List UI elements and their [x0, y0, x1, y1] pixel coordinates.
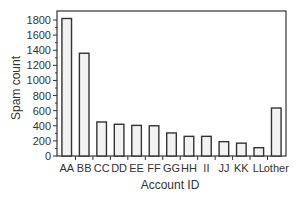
x-tick-label: DD — [111, 162, 127, 174]
x-tick-label: KK — [234, 162, 249, 174]
chart-canvas: 020040060080010001200140016001800AABBCCD… — [0, 0, 296, 200]
bar-cc — [97, 122, 107, 156]
y-tick-label: 1600 — [27, 29, 51, 41]
bar-jj — [219, 142, 229, 156]
x-tick-label: EE — [129, 162, 144, 174]
y-tick-label: 200 — [33, 135, 51, 147]
bar-ll — [254, 148, 264, 156]
y-tick-label: 1400 — [27, 44, 51, 56]
x-tick-label: JJ — [218, 162, 229, 174]
x-tick-label: II — [203, 162, 209, 174]
bar-hh — [184, 136, 194, 156]
bar-ff — [149, 126, 159, 156]
y-tick-label: 1800 — [27, 14, 51, 26]
bar-ee — [132, 125, 142, 156]
y-tick-label: 1000 — [27, 74, 51, 86]
x-tick-label: FF — [147, 162, 161, 174]
y-tick-label: 1200 — [27, 59, 51, 71]
bar-aa — [62, 18, 72, 156]
y-tick-label: 0 — [45, 150, 51, 162]
y-tick-label: 400 — [33, 120, 51, 132]
x-tick-label: CC — [94, 162, 110, 174]
x-tick-label: other — [264, 162, 289, 174]
bar-bb — [79, 53, 89, 156]
y-tick-label: 800 — [33, 90, 51, 102]
bar-other — [271, 108, 281, 156]
bar-dd — [114, 124, 124, 156]
x-tick-label: GG — [163, 162, 180, 174]
bar-kk — [237, 143, 247, 156]
y-axis-label: Spam count — [9, 56, 23, 120]
x-tick-label: HH — [181, 162, 197, 174]
y-tick-label: 600 — [33, 105, 51, 117]
x-tick-label: AA — [59, 162, 74, 174]
x-tick-label: BB — [77, 162, 92, 174]
bar-gg — [167, 133, 177, 156]
x-axis-label: Account ID — [141, 178, 200, 192]
bar-ii — [202, 136, 212, 156]
